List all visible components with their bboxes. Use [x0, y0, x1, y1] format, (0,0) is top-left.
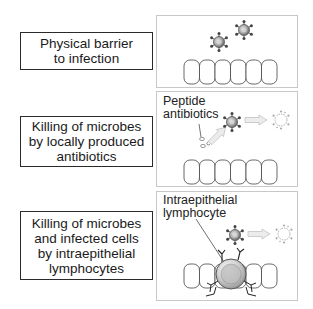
- pointer-line: [199, 124, 201, 137]
- microbe-icon: [226, 225, 244, 245]
- diagram-graphics: [0, 0, 313, 309]
- microbe-icon: [223, 112, 241, 132]
- dead-microbe-icon: [273, 110, 290, 129]
- microbe-icon: [235, 20, 253, 40]
- microbe-icon: [210, 32, 228, 52]
- dead-microbe-icon: [276, 224, 293, 243]
- pointer-line: [196, 219, 224, 262]
- arrow-icon: [245, 115, 267, 125]
- arrow-icon: [248, 229, 270, 239]
- epithelial-cell-icon: [184, 60, 277, 84]
- epithelial-cell-icon: [184, 160, 277, 184]
